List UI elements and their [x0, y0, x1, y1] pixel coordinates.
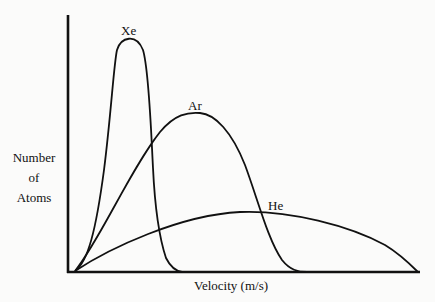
- x-axis-label: Velocity (m/s): [194, 278, 268, 293]
- he-label: He: [268, 198, 283, 213]
- xe-curve: [75, 39, 182, 272]
- ar-curve: [75, 113, 307, 272]
- y-axis-label-line1: Number: [8, 148, 60, 168]
- chart-canvas: [0, 0, 435, 302]
- ar-label: Ar: [188, 98, 202, 113]
- y-axis-label: Number of Atoms: [8, 148, 60, 208]
- xe-label: Xe: [121, 23, 136, 38]
- y-axis-label-line2: of: [8, 168, 60, 188]
- y-axis-label-line3: Atoms: [8, 188, 60, 208]
- he-curve: [75, 212, 418, 272]
